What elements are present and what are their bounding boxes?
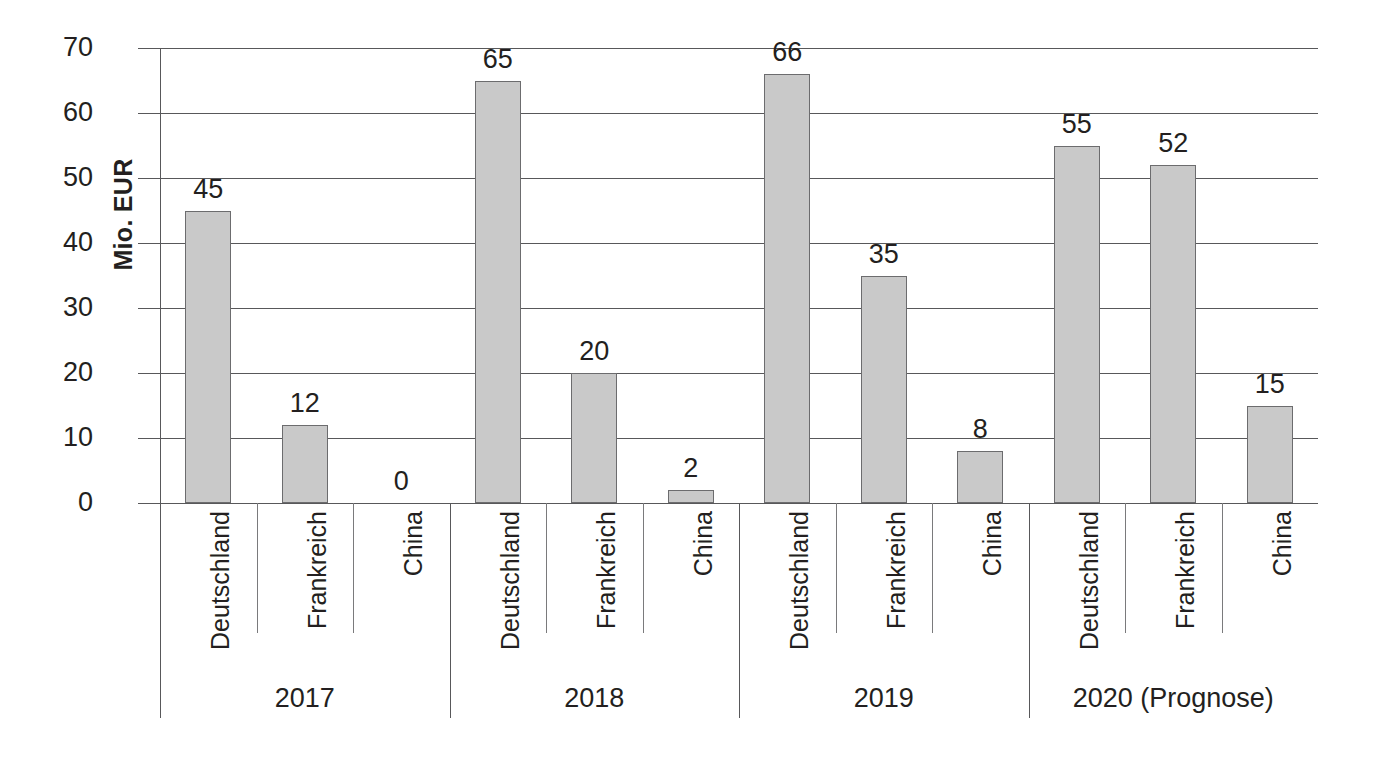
y-axis-tick-label: 30 (3, 294, 93, 321)
bars-layer: 451206520266358555215 (160, 48, 1318, 503)
bar-slot: 0 (353, 48, 450, 503)
bar[interactable] (1150, 165, 1196, 503)
bar-slot: 15 (1222, 48, 1319, 503)
bar-value-label: 20 (579, 338, 609, 365)
y-axis-tick-mark (138, 373, 160, 374)
bar[interactable] (861, 276, 907, 504)
y-axis-tick-label: 50 (3, 164, 93, 191)
bar-slot: 8 (932, 48, 1029, 503)
bar-value-label: 2 (683, 455, 698, 482)
category-label: Frankreich (1173, 511, 1198, 629)
bar[interactable] (185, 211, 231, 504)
category-label: Deutschland (1077, 511, 1102, 650)
bar-value-label: 45 (193, 176, 223, 203)
bar-value-label: 55 (1062, 111, 1092, 138)
category-label: Deutschland (787, 511, 812, 650)
bar-chart: Mio. EUR 706050403020100 451206520266358… (0, 0, 1383, 761)
y-axis-tick-label: 10 (3, 424, 93, 451)
bar[interactable] (475, 81, 521, 504)
category-axis: DeutschlandFrankreichChina2017Deutschlan… (160, 503, 1318, 718)
bar-slot: 35 (836, 48, 933, 503)
y-axis-tick-label: 0 (3, 489, 93, 516)
group-label: 2019 (739, 685, 1029, 712)
bar[interactable] (957, 451, 1003, 503)
category-label: China (401, 511, 426, 576)
bar-slot: 65 (450, 48, 547, 503)
bar[interactable] (1054, 146, 1100, 504)
bar[interactable] (571, 373, 617, 503)
bar-value-label: 0 (394, 468, 409, 495)
y-axis-tick-mark (138, 308, 160, 309)
bar-slot: 55 (1029, 48, 1126, 503)
y-axis-tick-mark (138, 178, 160, 179)
bar[interactable] (1247, 406, 1293, 504)
bar-slot: 20 (546, 48, 643, 503)
bar-slot: 12 (257, 48, 354, 503)
category-label: Deutschland (208, 511, 233, 650)
group-label: 2017 (160, 685, 450, 712)
y-axis-tick-mark (138, 48, 160, 49)
bar-value-label: 15 (1255, 371, 1285, 398)
category-label: China (980, 511, 1005, 576)
bar-value-label: 12 (290, 390, 320, 417)
group-label: 2018 (450, 685, 740, 712)
bar-slot: 2 (643, 48, 740, 503)
category-label: Deutschland (498, 511, 523, 650)
y-axis-tick-mark (138, 113, 160, 114)
bar-slot: 66 (739, 48, 836, 503)
y-axis-title: Mio. EUR (109, 120, 138, 310)
category-label: China (1270, 511, 1295, 576)
y-axis-tick-label: 20 (3, 359, 93, 386)
category-label: Frankreich (884, 511, 909, 629)
y-axis-tick-mark (138, 438, 160, 439)
bar-value-label: 8 (973, 416, 988, 443)
category-label: Frankreich (305, 511, 330, 629)
group-label: 2020 (Prognose) (1029, 685, 1319, 712)
y-axis-tick-label: 40 (3, 229, 93, 256)
category-label: China (691, 511, 716, 576)
bar-value-label: 66 (772, 39, 802, 66)
category-label: Frankreich (594, 511, 619, 629)
bar[interactable] (282, 425, 328, 503)
bar-slot: 45 (160, 48, 257, 503)
y-axis-tick-mark (138, 243, 160, 244)
bar-value-label: 65 (483, 46, 513, 73)
y-axis-tick-label: 60 (3, 99, 93, 126)
bar[interactable] (764, 74, 810, 503)
bar[interactable] (668, 490, 714, 503)
bar-value-label: 52 (1158, 130, 1188, 157)
y-axis-tick-mark (138, 503, 160, 504)
bar-value-label: 35 (869, 241, 899, 268)
bar-slot: 52 (1125, 48, 1222, 503)
y-axis-tick-label: 70 (3, 34, 93, 61)
